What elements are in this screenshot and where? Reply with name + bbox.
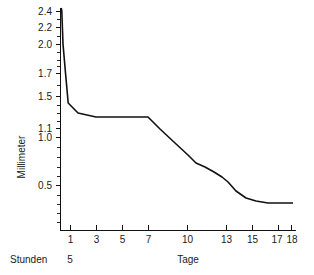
x-tick-label-4: 10 bbox=[182, 234, 194, 245]
x-axis-group: 1 3 5 7 10 13 15 17 18 Tage Stunden 5 bbox=[10, 225, 298, 266]
data-line-millimeter bbox=[61, 8, 293, 203]
x-tick-label-1: 3 bbox=[94, 234, 100, 245]
y-tick-label-2: 2.0 bbox=[38, 39, 52, 50]
chart-container: 2.4 2.2 2.0 1.7 1.5 1.1 1.0 0.5 Millimet… bbox=[0, 0, 314, 275]
x-tick-label-0: 1 bbox=[68, 234, 74, 245]
y-tick-label-1: 2.2 bbox=[38, 22, 52, 33]
x-tick-label-7: 17 bbox=[271, 234, 283, 245]
x-tick-label-2: 5 bbox=[120, 234, 126, 245]
x-tick-label-6: 15 bbox=[247, 234, 259, 245]
y-tick-label-6: 1.0 bbox=[38, 132, 52, 143]
y-axis-group: 2.4 2.2 2.0 1.7 1.5 1.1 1.0 0.5 Millimet… bbox=[16, 6, 61, 231]
x-axis-title: Tage bbox=[177, 254, 199, 265]
y-axis-title: Millimeter bbox=[16, 135, 27, 178]
x-origin-value-label: 5 bbox=[67, 254, 73, 265]
x-tick-label-3: 7 bbox=[146, 234, 152, 245]
data-series-group bbox=[61, 8, 293, 203]
line-chart: 2.4 2.2 2.0 1.7 1.5 1.1 1.0 0.5 Millimet… bbox=[0, 0, 314, 275]
y-tick-label-3: 1.7 bbox=[38, 68, 52, 79]
x-origin-unit-label: Stunden bbox=[10, 254, 47, 265]
y-tick-label-7: 0.5 bbox=[38, 180, 52, 191]
x-tick-label-5: 13 bbox=[221, 234, 233, 245]
y-tick-label-0: 2.4 bbox=[38, 6, 52, 17]
y-tick-label-4: 1.5 bbox=[38, 91, 52, 102]
x-tick-label-8: 18 bbox=[286, 234, 298, 245]
